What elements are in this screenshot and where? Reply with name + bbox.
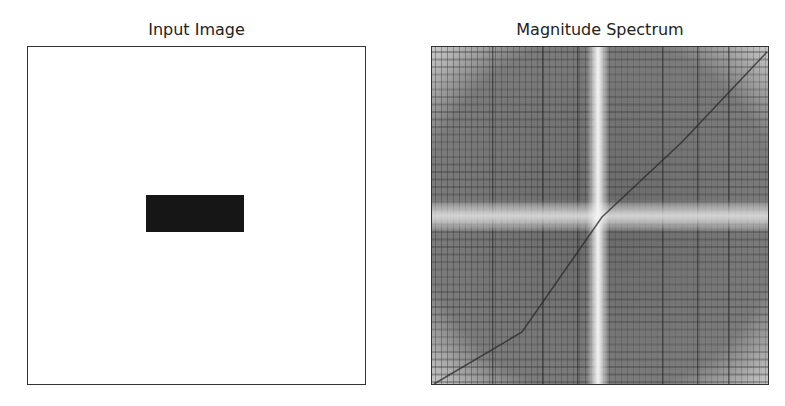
spectrum-image: [432, 47, 769, 385]
black-rectangle: [146, 195, 244, 232]
input-image-title: Input Image: [27, 20, 366, 39]
input-image-axes: [27, 46, 366, 385]
magnitude-spectrum-title: Magnitude Spectrum: [431, 20, 769, 39]
magnitude-spectrum-axes: [431, 46, 769, 385]
